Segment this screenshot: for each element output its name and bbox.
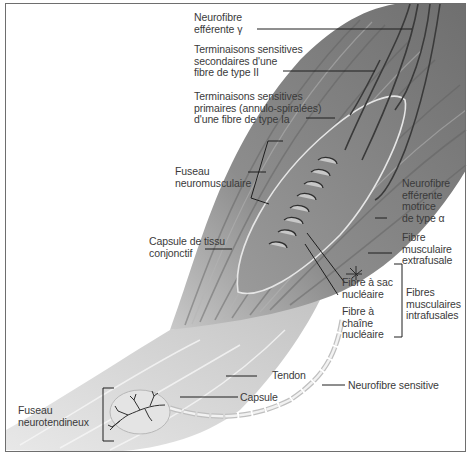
label-golgi-tendon-organ: Fuseau neurotendineux <box>18 405 89 428</box>
label-muscle-spindle: Fuseau neuromusculaire <box>175 166 251 189</box>
label-primary-endings: Terminaisons sensitives primaires (annul… <box>194 91 321 126</box>
label-extrafusal-fibre: Fibre musculaire extrafusale <box>402 232 452 267</box>
label-secondary-endings: Terminaisons sensitives secondaires d'un… <box>194 44 303 79</box>
label-capsule: Capsule <box>240 392 278 404</box>
label-connective-capsule: Capsule de tissu conjonctif <box>149 236 225 259</box>
label-tendon: Tendon <box>272 370 306 382</box>
label-nuclear-bag-fibre: Fibre à sac nucléaire <box>342 277 393 300</box>
label-sensory-neurofibre: Neurofibre sensitive <box>348 380 439 392</box>
label-alpha-motor: Neurofibre efférente motrice de type α <box>402 178 450 224</box>
label-gamma-efferent: Neurofibre efférente γ <box>194 12 242 35</box>
label-nuclear-chain-fibre: Fibre à chaîne nucléaire <box>342 306 384 341</box>
label-intrafusal-fibres: Fibres musculaires intrafusales <box>406 287 461 322</box>
